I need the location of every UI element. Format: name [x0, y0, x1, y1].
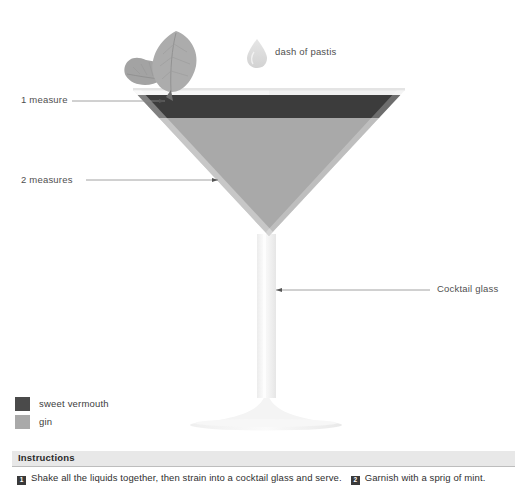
instructions-steps: 1 Shake all the liquids together, then s… [17, 473, 511, 484]
callout-label-cocktail-glass: Cocktail glass [437, 284, 498, 294]
step-text-2: Garnish with a sprig of mint. [365, 473, 486, 483]
cocktail-glass-illustration [0, 0, 515, 450]
callout-label-one-measure: 1 measure [21, 95, 68, 105]
step-marker-2: 2 [351, 476, 360, 485]
step-text-1: Shake all the liquids together, then str… [31, 473, 342, 483]
legend-label-gin: gin [39, 417, 52, 427]
ingredient-legend: sweet vermouth gin [15, 396, 235, 432]
legend-swatch-sweet-vermouth [15, 397, 30, 411]
cocktail-diagram: 1 measure 2 measures Cocktail glass dash… [0, 0, 515, 450]
instructions-title: Instructions [18, 453, 75, 463]
instructions-divider [12, 466, 515, 467]
cocktail-recipe-page: 1 measure 2 measures Cocktail glass dash… [0, 0, 515, 491]
step-marker-1: 1 [17, 476, 26, 485]
liquid-gin [120, 118, 420, 243]
callout-label-two-measures: 2 measures [21, 175, 73, 185]
pastis-droplet-icon [247, 39, 267, 68]
instructions-section: Instructions 1 Shake all the liquids tog… [0, 451, 515, 491]
legend-item-gin: gin [15, 414, 235, 429]
callout-label-dash-of-pastis: dash of pastis [275, 47, 336, 57]
legend-swatch-gin [15, 415, 30, 429]
legend-item-sweet-vermouth: sweet vermouth [15, 396, 235, 411]
glass-stem [257, 234, 276, 398]
legend-label-sweet-vermouth: sweet vermouth [39, 399, 109, 409]
instructions-header-band [12, 451, 515, 466]
